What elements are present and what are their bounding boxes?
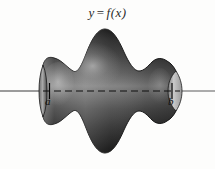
function-label-fx: f(x) [107,5,127,20]
function-label-equals: = [95,5,107,20]
revolution-solid-graphic [0,0,215,169]
function-label-y: y [88,5,94,20]
endpoint-label-a: a [45,96,51,107]
function-label: y=f(x) [0,5,215,21]
solid-of-revolution-figure: y=f(x) a b [0,0,215,169]
endpoint-label-b: b [168,96,174,107]
